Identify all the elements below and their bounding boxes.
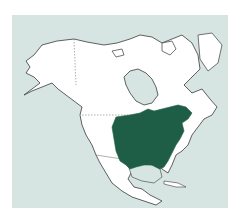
- cuba: [164, 181, 186, 187]
- greenland-edge: [198, 33, 222, 71]
- north-america-map: [12, 15, 228, 208]
- map-panel: Range map of North America: [12, 15, 228, 208]
